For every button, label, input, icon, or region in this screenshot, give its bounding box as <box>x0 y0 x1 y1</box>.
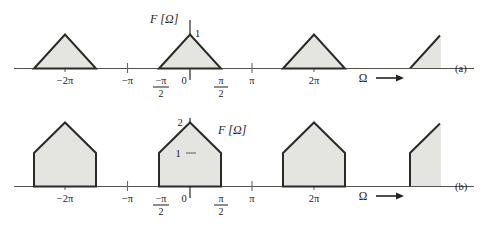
panel-b-ytick-1: 1 <box>175 148 180 159</box>
panel-a-omega-label: Ω <box>359 72 368 84</box>
panel-a: F [Ω] 1 −2π −π 0 π 2π −π 2 π 2 Ω (a) <box>14 12 474 99</box>
panel-b-pulse-2pi <box>283 123 345 187</box>
panel-b-axis-title: F [Ω] <box>217 123 247 137</box>
panel-a-label-negpi: −π <box>122 75 134 86</box>
figure-canvas: F [Ω] 1 −2π −π 0 π 2π −π 2 π 2 Ω (a) <box>0 0 486 230</box>
panel-b-label-neghalfpi-denominator: 2 <box>159 206 164 217</box>
panel-b-ytick-2: 2 <box>177 117 182 128</box>
panel-a-label-pi: π <box>249 75 255 86</box>
panel-b-label-neghalfpi: −π 2 <box>153 193 169 217</box>
panel-b-label-2pi: 2π <box>309 193 320 204</box>
panel-a-caption: (a) <box>455 63 467 75</box>
panel-a-label-halfpi: π 2 <box>214 75 228 99</box>
panel-b-label-halfpi-denominator: 2 <box>219 206 224 217</box>
panel-b-omega-arrow-head <box>396 193 404 200</box>
panel-a-label-zero: 0 <box>181 75 186 86</box>
panel-a-label-2pi: 2π <box>309 75 320 86</box>
panel-b-label-pi: π <box>249 193 255 204</box>
panel-a-pulse-neg2pi <box>34 35 96 69</box>
panel-a-omega-arrow-head <box>396 75 404 82</box>
panel-a-label-halfpi-denominator: 2 <box>219 88 224 99</box>
panel-b-pulse-zero <box>159 123 221 187</box>
panel-b-label-neghalfpi-numerator: −π <box>156 193 167 204</box>
panel-a-label-neg2pi: −2π <box>57 75 74 86</box>
panel-a-pulse-2pi <box>283 35 345 69</box>
panel-b-label-zero: 0 <box>181 193 186 204</box>
panel-b-label-halfpi: π 2 <box>214 193 228 217</box>
panel-b-label-negpi: −π <box>122 193 134 204</box>
panel-b-omega-label: Ω <box>359 190 368 202</box>
panel-b: 2 1 F [Ω] −2π −π 0 π 2π −π 2 π 2 Ω (b) <box>14 117 474 217</box>
panel-a-label-halfpi-numerator: π <box>218 75 223 86</box>
panel-a-ytick-1: 1 <box>195 28 200 39</box>
panel-a-label-neghalfpi-denominator: 2 <box>159 88 164 99</box>
panel-b-caption: (b) <box>455 181 468 193</box>
panel-a-pulse-zero <box>159 35 221 69</box>
panel-a-label-neghalfpi-numerator: −π <box>156 75 167 86</box>
panel-b-label-halfpi-numerator: π <box>218 193 223 204</box>
panel-b-label-neg2pi: −2π <box>57 193 74 204</box>
panel-a-label-neghalfpi: −π 2 <box>153 75 169 99</box>
panel-a-axis-title: F [Ω] <box>149 12 179 26</box>
panel-b-pulse-neg2pi <box>34 123 96 187</box>
